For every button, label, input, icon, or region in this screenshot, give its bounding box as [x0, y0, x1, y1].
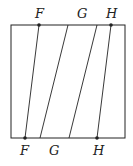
- point-f-bottom: [23, 136, 27, 140]
- point-h-bottom: [95, 136, 99, 140]
- point-h-top: [109, 23, 113, 27]
- label-g-bottom: G: [49, 143, 59, 158]
- label-h-bottom: H: [92, 143, 105, 158]
- label-g-top: G: [77, 6, 87, 21]
- segment-h: [97, 25, 111, 138]
- point-f-top: [37, 23, 41, 27]
- square: [11, 25, 125, 138]
- label-f-top: F: [34, 6, 45, 21]
- diagram: F G H F G H: [0, 0, 133, 166]
- segment-g-1: [40, 25, 68, 138]
- label-h-top: H: [105, 6, 118, 21]
- segment-f: [25, 25, 39, 138]
- label-f-bottom: F: [19, 143, 30, 158]
- segment-g-2: [69, 25, 97, 138]
